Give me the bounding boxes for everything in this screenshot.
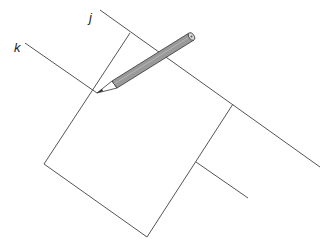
diagram-canvas bbox=[0, 0, 336, 252]
branch-line bbox=[196, 162, 248, 198]
pencil-icon bbox=[97, 32, 196, 93]
rectangle-shape bbox=[44, 33, 233, 237]
line-j bbox=[100, 10, 320, 167]
line-k bbox=[25, 43, 97, 93]
label-j: j bbox=[89, 10, 92, 25]
label-k: k bbox=[14, 40, 21, 55]
